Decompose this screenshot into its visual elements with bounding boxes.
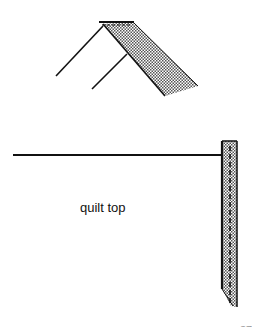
quilt-top-label: quilt top	[80, 200, 126, 215]
folded-binding-strip	[56, 22, 198, 96]
quilt-binding-diagram	[0, 0, 267, 327]
binding-strip-attached	[222, 141, 237, 307]
page-number: 37	[240, 323, 252, 327]
